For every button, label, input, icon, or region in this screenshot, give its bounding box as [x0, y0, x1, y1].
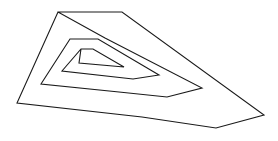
spiral-canvas — [0, 0, 278, 141]
canvas-background — [0, 0, 278, 141]
spiral-figure — [0, 0, 278, 141]
